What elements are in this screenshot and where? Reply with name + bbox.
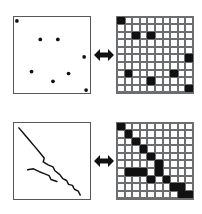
grid-cell-empty <box>185 39 193 47</box>
grid-cell-empty <box>170 85 178 93</box>
grid-cell-empty <box>185 77 193 85</box>
grid-cell-empty <box>132 153 140 161</box>
grid-cell-empty <box>185 123 193 131</box>
grid-cell-empty <box>140 123 148 131</box>
grid-cell-empty <box>185 168 193 176</box>
grid-cell-empty <box>125 176 133 184</box>
grid-cell-empty <box>185 138 193 146</box>
grid-cell-empty <box>117 39 125 47</box>
grid-cell-empty <box>147 39 155 47</box>
grid-cell-filled <box>170 70 178 78</box>
grid-cell-filled <box>140 168 148 176</box>
grid-cell-empty <box>155 138 163 146</box>
grid-cell-empty <box>185 24 193 32</box>
grid-cell-empty <box>132 191 140 199</box>
grid-cell-empty <box>125 153 133 161</box>
grid-cell-empty <box>170 47 178 55</box>
grid-cell-empty <box>117 24 125 32</box>
grid-cell-filled <box>125 130 133 138</box>
grid-cell-empty <box>117 54 125 62</box>
grid-cell-empty <box>170 39 178 47</box>
grid-cell-empty <box>125 191 133 199</box>
short-lower-line <box>28 168 57 181</box>
grid-cell-empty <box>147 62 155 70</box>
binary-grid-bottom <box>116 122 194 200</box>
grid-cell-empty <box>147 47 155 55</box>
grid-cell-empty <box>117 176 125 184</box>
grid-cell-empty <box>155 17 163 25</box>
grid-cell-empty <box>155 70 163 78</box>
grid-cell-empty <box>125 85 133 93</box>
grid-cell-empty <box>117 130 125 138</box>
grid-cell-empty <box>117 77 125 85</box>
grid-cell-empty <box>163 24 171 32</box>
grid-cell-empty <box>163 183 171 191</box>
grid-cell-empty <box>170 62 178 70</box>
grid-cell-empty <box>163 123 171 131</box>
grid-cell-empty <box>178 39 186 47</box>
grid-cell-empty <box>185 145 193 153</box>
grid-cell-empty <box>155 183 163 191</box>
scatter-plot-box <box>13 16 91 94</box>
grid-cell-empty <box>178 24 186 32</box>
grid-cell-empty <box>178 77 186 85</box>
grid-cell-filled <box>147 77 155 85</box>
grid-cell-filled <box>178 191 186 199</box>
equivalence-arrow-top <box>93 48 115 62</box>
grid-cell-empty <box>163 77 171 85</box>
grid-cell-empty <box>155 145 163 153</box>
grid-cell-empty <box>140 176 148 184</box>
grid-cell-empty <box>178 138 186 146</box>
grid-cell-empty <box>125 62 133 70</box>
line-pattern-row <box>0 112 202 209</box>
grid-cell-empty <box>140 183 148 191</box>
grid-cell-empty <box>170 123 178 131</box>
grid-cell-empty <box>163 191 171 199</box>
grid-cell-empty <box>178 168 186 176</box>
grid-cell-empty <box>117 70 125 78</box>
grid-cell-empty <box>163 153 171 161</box>
grid-cell-empty <box>147 160 155 168</box>
scatter-point <box>51 79 55 83</box>
grid-cell-filled <box>170 183 178 191</box>
grid-cell-empty <box>132 62 140 70</box>
grid-cell-filled <box>132 138 140 146</box>
grid-cell-filled <box>132 168 140 176</box>
scatter-point <box>84 88 88 92</box>
grid-cell-empty <box>125 39 133 47</box>
grid-cell-empty <box>163 32 171 40</box>
grid-cell-empty <box>170 176 178 184</box>
grid-cell-empty <box>140 85 148 93</box>
grid-cell-empty <box>163 54 171 62</box>
grid-cell-empty <box>155 24 163 32</box>
grid-cell-empty <box>125 145 133 153</box>
binary-grid-top <box>116 16 194 94</box>
grid-cell-empty <box>155 153 163 161</box>
equivalence-arrow-bottom <box>93 154 115 168</box>
grid-cell-empty <box>125 160 133 168</box>
grid-cell-empty <box>125 123 133 131</box>
scatter-point-group <box>15 19 88 92</box>
grid-cell-empty <box>178 176 186 184</box>
grid-cell-empty <box>147 123 155 131</box>
grid-cell-empty <box>155 47 163 55</box>
grid-cell-empty <box>185 183 193 191</box>
grid-cell-empty <box>155 85 163 93</box>
grid-cell-empty <box>125 54 133 62</box>
grid-cell-empty <box>185 160 193 168</box>
grid-cell-empty <box>140 54 148 62</box>
grid-cell-empty <box>155 130 163 138</box>
grid-cell-empty <box>147 70 155 78</box>
grid-cell-filled <box>185 85 193 93</box>
grid-cell-empty <box>155 77 163 85</box>
grid-cell-empty <box>163 160 171 168</box>
grid-cell-empty <box>178 130 186 138</box>
grid-cell-empty <box>132 39 140 47</box>
grid-cell-empty <box>140 130 148 138</box>
grid-cell-empty <box>155 191 163 199</box>
grid-cell-empty <box>125 77 133 85</box>
grid-cell-empty <box>117 191 125 199</box>
grid-cell-empty <box>117 138 125 146</box>
grid-cell-empty <box>155 176 163 184</box>
grid-cell-empty <box>185 153 193 161</box>
